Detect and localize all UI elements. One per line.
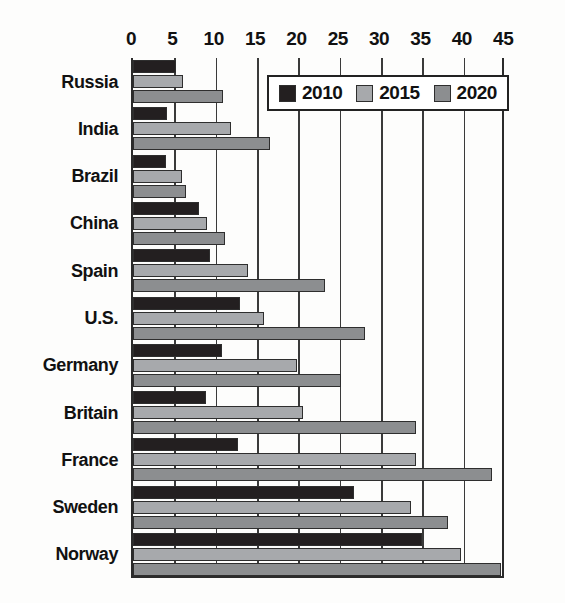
x-tick-label: 40 (452, 28, 472, 50)
bar (133, 137, 270, 150)
y-category-label: U.S. (85, 308, 118, 329)
y-category-label: Germany (43, 355, 118, 376)
y-category-label: Russia (61, 71, 118, 92)
legend-swatch-icon (279, 85, 296, 102)
y-category-label: Norway (55, 544, 118, 565)
bar (133, 374, 341, 387)
y-category-label: France (61, 449, 118, 470)
bar-group (133, 344, 502, 387)
legend-label: 2020 (457, 82, 497, 104)
legend-entry: 2020 (434, 82, 497, 104)
x-tick-label: 20 (286, 28, 306, 50)
bar (133, 421, 416, 434)
y-category-label: Spain (71, 260, 118, 281)
y-category-label: China (70, 213, 118, 234)
bar (133, 548, 461, 561)
bar-group (133, 533, 502, 576)
bar-group (133, 438, 502, 481)
bar-group (133, 391, 502, 434)
x-tick-label: 10 (204, 28, 224, 50)
legend-entry: 2015 (356, 82, 419, 104)
bar-group (133, 107, 502, 150)
bar-chart: 051015202530354045 RussiaIndiaBrazilChin… (0, 0, 565, 603)
bar (133, 501, 411, 514)
bar (133, 312, 264, 325)
bar (133, 391, 206, 404)
x-axis-tick-labels: 051015202530354045 (0, 28, 565, 54)
y-category-label: Sweden (52, 497, 118, 518)
bar-group (133, 155, 502, 198)
plot-area (131, 58, 504, 578)
x-tick-label: 0 (126, 28, 136, 50)
x-tick-label: 45 (493, 28, 513, 50)
chart-legend: 201020152020 (267, 75, 509, 111)
y-axis-category-labels: RussiaIndiaBrazilChinaSpainU.S.GermanyBr… (0, 58, 126, 578)
legend-label: 2010 (302, 82, 342, 104)
bar (133, 217, 207, 230)
bar (133, 170, 182, 183)
legend-swatch-icon (356, 85, 373, 102)
bar (133, 202, 199, 215)
bar (133, 155, 166, 168)
bar (133, 438, 238, 451)
bar-group (133, 249, 502, 292)
bar (133, 327, 365, 340)
bar (133, 344, 222, 357)
x-tick-label: 35 (410, 28, 430, 50)
bar (133, 453, 416, 466)
bar (133, 359, 297, 372)
bar-group (133, 486, 502, 529)
bar (133, 279, 325, 292)
bar (133, 75, 183, 88)
legend-label: 2015 (379, 82, 419, 104)
legend-swatch-icon (434, 85, 451, 102)
x-tick-label: 15 (245, 28, 265, 50)
bar-group (133, 202, 502, 245)
bar (133, 406, 303, 419)
bar (133, 264, 248, 277)
bar (133, 249, 210, 262)
bar (133, 107, 167, 120)
bar (133, 232, 225, 245)
bar (133, 60, 176, 73)
x-tick-label: 25 (328, 28, 348, 50)
y-category-label: India (78, 118, 118, 139)
bar (133, 516, 448, 529)
x-tick-label: 30 (369, 28, 389, 50)
bar-group (133, 297, 502, 340)
x-tick-label: 5 (167, 28, 177, 50)
bar (133, 533, 422, 546)
bar (133, 185, 186, 198)
legend-entry: 2010 (279, 82, 342, 104)
bar (133, 563, 501, 576)
bar (133, 90, 223, 103)
y-category-label: Brazil (71, 166, 118, 187)
bar (133, 468, 492, 481)
bar (133, 297, 240, 310)
y-category-label: Britain (64, 402, 118, 423)
bar (133, 486, 354, 499)
bar (133, 122, 231, 135)
